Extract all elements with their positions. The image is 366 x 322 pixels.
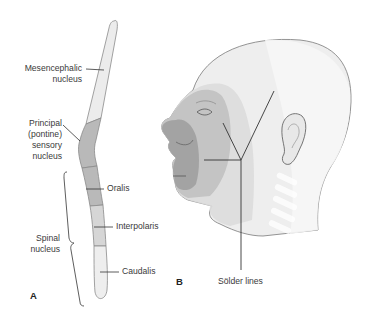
label-caudalis: Caudalis <box>122 266 155 277</box>
label-spinal-line2: nucleus <box>10 244 60 255</box>
label-spinal-nucleus: Spinal nucleus <box>10 233 60 255</box>
spinal-nucleus-brace <box>64 172 84 306</box>
oralis-region <box>82 166 103 206</box>
label-principal-line1: Principal <box>10 118 62 129</box>
label-principal-line2: (pontine) <box>10 129 62 140</box>
head-illustration <box>162 39 351 270</box>
panel-label-a: A <box>30 290 37 301</box>
brainstem-column <box>79 20 118 298</box>
label-principal-sensory: Principal (pontine) sensory nucleus <box>10 118 62 162</box>
label-mesencephalic-line2: nucleus <box>10 74 82 85</box>
label-interpolaris: Interpolaris <box>116 221 159 232</box>
panel-label-b: B <box>176 276 183 287</box>
label-oralis: Oralis <box>107 183 129 194</box>
interpolaris-region <box>90 205 106 246</box>
principal-sensory-region <box>79 118 101 168</box>
label-mesencephalic: Mesencephalic nucleus <box>10 63 82 85</box>
label-principal-line4: nucleus <box>10 151 62 162</box>
label-solder-lines: Sölder lines <box>218 276 263 287</box>
leader-principal <box>63 125 80 141</box>
label-spinal-line1: Spinal <box>10 233 60 244</box>
label-principal-line3: sensory <box>10 140 62 151</box>
mesencephalic-nucleus-region <box>86 20 117 124</box>
label-mesencephalic-line1: Mesencephalic <box>10 63 82 74</box>
sensory-zone-inner <box>162 120 199 190</box>
